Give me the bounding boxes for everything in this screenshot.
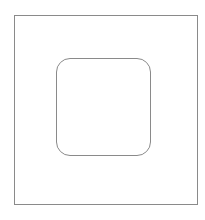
inner-rounded-square	[56, 58, 151, 156]
